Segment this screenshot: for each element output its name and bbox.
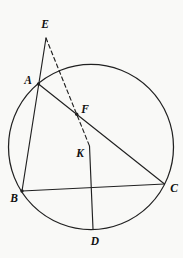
- point-label-K: K: [75, 147, 85, 159]
- point-label-C: C: [170, 182, 178, 194]
- segment-AC: [39, 84, 165, 184]
- point-dot-B: [20, 189, 23, 192]
- point-label-A: A: [23, 74, 32, 86]
- point-dot-A: [37, 82, 40, 85]
- segment-EK-dashed: [46, 38, 90, 146]
- point-label-E: E: [40, 18, 49, 30]
- point-label-F: F: [80, 103, 89, 115]
- segment-EB: [22, 38, 46, 191]
- point-dot-F: [75, 113, 78, 116]
- segment-BC: [22, 184, 165, 191]
- geometry-figure: EAFKBCD: [0, 0, 183, 258]
- main-circle: [9, 65, 174, 230]
- point-label-B: B: [9, 192, 18, 204]
- point-label-D: D: [90, 235, 100, 247]
- circle-diagram-svg: EAFKBCD: [0, 0, 183, 258]
